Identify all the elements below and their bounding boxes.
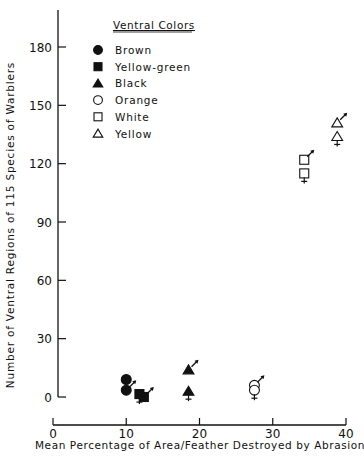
legend-item: Black bbox=[93, 77, 147, 89]
legend-item: Orange bbox=[94, 94, 159, 106]
data-point bbox=[249, 385, 259, 400]
y-tick-label: 60 bbox=[37, 274, 52, 288]
y-tick-label: 90 bbox=[37, 216, 52, 230]
triangle-marker-icon bbox=[93, 79, 103, 87]
triangle-marker-icon bbox=[183, 386, 194, 395]
y-axis-label: Number of Ventral Regions of 115 Species… bbox=[4, 62, 16, 388]
legend-item-label: Yellow-green bbox=[114, 61, 191, 73]
legend-item-label: Black bbox=[115, 77, 148, 89]
scatter-chart: 0306090120150180 010203040 Mean Percenta… bbox=[0, 0, 364, 465]
y-tick-label: 120 bbox=[29, 157, 52, 171]
circle-marker-icon bbox=[249, 385, 259, 395]
y-tick-label: 180 bbox=[29, 41, 52, 55]
y-tick-label: 150 bbox=[29, 99, 52, 113]
triangle-marker-icon bbox=[332, 131, 343, 140]
legend-item-label: White bbox=[115, 111, 150, 123]
legend-title: Ventral Colors bbox=[113, 19, 195, 31]
data-points bbox=[121, 113, 347, 404]
y-axis-ticks: 0306090120150180 bbox=[29, 41, 66, 405]
square-marker-icon bbox=[94, 63, 102, 71]
legend: Ventral Colors BrownYellow-greenBlackOra… bbox=[93, 19, 195, 140]
data-point bbox=[300, 169, 309, 184]
circle-marker-icon bbox=[94, 96, 103, 105]
circle-marker-icon bbox=[94, 46, 103, 55]
triangle-marker-icon bbox=[93, 129, 103, 137]
data-point bbox=[332, 131, 343, 146]
square-marker-icon bbox=[94, 113, 102, 121]
legend-item: Yellow bbox=[93, 128, 152, 140]
data-point bbox=[332, 113, 347, 127]
data-point bbox=[183, 386, 194, 401]
square-marker-icon bbox=[300, 169, 309, 178]
legend-item-label: Orange bbox=[115, 94, 159, 106]
data-point bbox=[300, 150, 315, 165]
circle-marker-icon bbox=[121, 375, 131, 385]
legend-item: Yellow-green bbox=[94, 61, 191, 73]
x-axis-ticks: 010203040 bbox=[49, 418, 353, 441]
x-axis-label: Mean Percentage of Area/Feather Destroye… bbox=[35, 439, 364, 451]
y-tick-label: 30 bbox=[37, 332, 52, 346]
legend-item: Brown bbox=[94, 44, 152, 56]
data-point bbox=[183, 360, 198, 374]
y-tick-label: 0 bbox=[44, 391, 52, 405]
legend-item-label: Yellow bbox=[114, 128, 152, 140]
legend-item-label: Brown bbox=[115, 44, 152, 56]
legend-item: White bbox=[94, 111, 150, 123]
